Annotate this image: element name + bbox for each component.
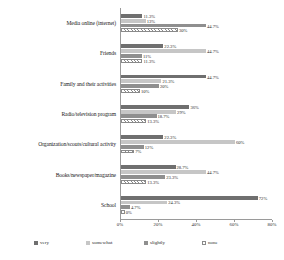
bar-none	[121, 28, 178, 32]
bar-row: 22.3%	[121, 44, 272, 48]
bar-value-label: 13%	[146, 18, 155, 23]
bar-group: 72%24.3%4.7%0%	[121, 196, 272, 214]
legend-label: somewhat	[92, 240, 112, 246]
bar-row: 24.3%	[121, 201, 272, 205]
category-axis-labels: Media online (internet)FriendsFamily and…	[0, 8, 118, 220]
category-label: Media online (internet)	[0, 20, 116, 26]
bar-value-label: 11.3%	[142, 58, 155, 63]
bar-value-label: 22.3%	[163, 135, 176, 140]
x-axis-tick-label: 40%	[192, 222, 201, 228]
bar-slightly	[121, 54, 142, 58]
legend-item-very[interactable]: very	[34, 240, 49, 246]
legend-label: slightly	[150, 240, 165, 246]
bar-very	[121, 14, 142, 18]
bar-row: 10%	[121, 89, 272, 93]
bar-value-label: 10%	[140, 88, 149, 93]
bar-none	[121, 180, 146, 184]
bar-row: 22.3%	[121, 135, 272, 139]
legend-swatch-icon	[34, 241, 38, 245]
bar-row: 28.7%	[121, 165, 272, 169]
bar-value-label: 60%	[235, 139, 244, 144]
legend-swatch-icon	[144, 241, 148, 245]
category-label: Organization/scouts/cultural activity	[0, 141, 116, 147]
bar-somewhat	[121, 49, 206, 53]
bar-value-label: 30%	[178, 28, 187, 33]
legend-item-none[interactable]: none	[202, 240, 218, 246]
bar-none	[121, 119, 146, 123]
bar-none	[121, 150, 134, 154]
bar-somewhat	[121, 140, 235, 144]
bar-chart: Media online (internet)FriendsFamily and…	[0, 0, 284, 260]
bar-group: 22.3%60%12%7%	[121, 135, 272, 153]
bar-row: 72%	[121, 196, 272, 200]
bar-row: 29%	[121, 110, 272, 114]
category-label: School	[0, 202, 116, 208]
bar-value-label: 20%	[159, 84, 168, 89]
legend-item-somewhat[interactable]: somewhat	[86, 240, 112, 246]
bar-row: 36%	[121, 105, 272, 109]
bar-value-label: 44.7%	[206, 49, 219, 54]
bar-value-label: 44.7%	[206, 170, 219, 175]
bar-row: 44.7%	[121, 75, 272, 79]
bar-value-label: 23.3%	[165, 174, 178, 179]
bar-row: 4.7%	[121, 205, 272, 209]
bar-group: 22.3%44.7%11%11.3%	[121, 44, 272, 62]
bar-row: 13%	[121, 19, 272, 23]
bar-very	[121, 135, 163, 139]
bar-row: 13.3%	[121, 180, 272, 184]
bar-row: 11.3%	[121, 59, 272, 63]
x-axis-tick-label: 60%	[230, 222, 239, 228]
bar-row: 0%	[121, 210, 272, 214]
bar-group: 44.7%21.3%20%10%	[121, 75, 272, 93]
bar-very	[121, 165, 176, 169]
x-axis-tick-labels: 0%20%40%60%80%	[120, 222, 272, 231]
bar-value-label: 44.7%	[206, 74, 219, 79]
bar-somewhat	[121, 19, 146, 23]
bar-none	[121, 59, 142, 63]
legend-swatch-icon	[202, 241, 206, 245]
bar-row: 13.3%	[121, 119, 272, 123]
chart-legend: verysomewhatslightlynone	[34, 240, 250, 252]
bar-slightly	[121, 24, 206, 28]
bar-somewhat	[121, 201, 167, 205]
bar-value-label: 24.3%	[167, 200, 180, 205]
bar-group: 11.3%13%44.7%30%	[121, 14, 272, 32]
bar-value-label: 22.3%	[163, 44, 176, 49]
bar-value-label: 7%	[134, 149, 141, 154]
bar-row: 18.7%	[121, 114, 272, 118]
bar-value-label: 13.3%	[146, 119, 159, 124]
x-axis-tick-label: 0%	[117, 222, 123, 228]
bar-value-label: 72%	[258, 195, 267, 200]
bar-row: 21.3%	[121, 79, 272, 83]
bar-very	[121, 44, 163, 48]
bar-value-label: 44.7%	[206, 23, 219, 28]
bar-value-label: 36%	[189, 104, 198, 109]
bar-row: 30%	[121, 28, 272, 32]
category-label: Family and their activities	[0, 81, 116, 87]
bar-none	[121, 89, 140, 93]
plot-wrapper: Media online (internet)FriendsFamily and…	[0, 8, 284, 220]
bar-row: 44.7%	[121, 24, 272, 28]
category-label: Books/newspaper/magazine	[0, 172, 116, 178]
bar-row: 11.3%	[121, 14, 272, 18]
bar-value-label: 13.3%	[146, 179, 159, 184]
bar-row: 44.7%	[121, 170, 272, 174]
bar-group: 28.7%44.7%23.3%13.3%	[121, 165, 272, 183]
bar-value-label: 12%	[144, 144, 153, 149]
plot-area: 11.3%13%44.7%30%22.3%44.7%11%11.3%44.7%2…	[120, 8, 272, 220]
bar-value-label: 28.7%	[176, 165, 189, 170]
bar-very	[121, 196, 258, 200]
legend-swatch-icon	[86, 241, 90, 245]
bar-somewhat	[121, 170, 206, 174]
legend-label: very	[40, 240, 49, 246]
bar-value-label: 0%	[125, 210, 132, 215]
bar-row: 7%	[121, 150, 272, 154]
bar-value-label: 29%	[176, 109, 185, 114]
x-axis-tick-label: 20%	[154, 222, 163, 228]
legend-label: none	[208, 240, 218, 246]
bar-group: 36%29%18.7%13.3%	[121, 105, 272, 123]
category-label: Friends	[0, 50, 116, 56]
bar-somewhat	[121, 79, 161, 83]
category-label: Radio/television program	[0, 111, 116, 117]
legend-item-slightly[interactable]: slightly	[144, 240, 165, 246]
